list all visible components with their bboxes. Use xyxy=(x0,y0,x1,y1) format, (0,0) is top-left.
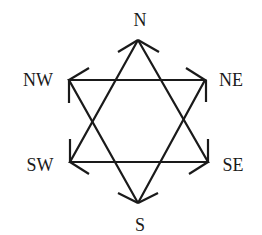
downward-triangle xyxy=(69,80,205,203)
compass-star-diagram: N NW NE SW SE S xyxy=(0,0,262,235)
label-northeast: NE xyxy=(219,70,243,90)
upward-triangle xyxy=(70,40,208,162)
label-southwest: SW xyxy=(27,155,54,175)
label-northwest: NW xyxy=(23,70,53,90)
label-north: N xyxy=(134,10,147,30)
label-southeast: SE xyxy=(222,155,243,175)
label-south: S xyxy=(135,215,145,235)
